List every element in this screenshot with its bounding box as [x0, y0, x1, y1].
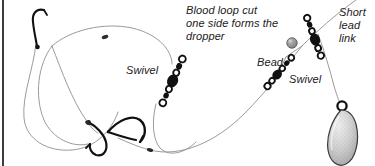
label-swivel-right: Swivel: [289, 73, 321, 86]
line-hook-top-left: [24, 44, 118, 150]
bead-grey: [287, 38, 297, 48]
knot-upper-left: [101, 34, 109, 40]
lead-weight-teardrop: [328, 101, 358, 165]
line-blood-loop-upper: [52, 26, 172, 64]
hook-lower-left: [86, 120, 106, 155]
hook-top-left: [33, 10, 47, 50]
label-swivel-left: Swivel: [126, 64, 158, 77]
label-short-lead-link: Short lead link: [339, 6, 366, 45]
fishing-rig-diagram: Blood loop cut one side forms the droppe…: [0, 0, 375, 166]
label-bead: Bead: [257, 56, 283, 69]
line-blood-loop-left: [38, 46, 88, 145]
knot-lower-middle: [146, 148, 153, 153]
hooks: [33, 10, 145, 156]
label-blood-loop: Blood loop cut one side forms the droppe…: [186, 4, 278, 43]
swivel-assembly-lead-link: [301, 13, 326, 60]
line-lead-link: [318, 34, 342, 108]
swivel-assembly-left: [157, 54, 189, 108]
line-dropper-left: [52, 46, 98, 133]
line-below-left-swivel: [153, 104, 196, 153]
